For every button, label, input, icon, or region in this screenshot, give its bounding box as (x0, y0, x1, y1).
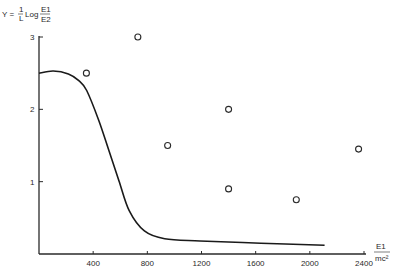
x-tick-label: 1200 (193, 259, 211, 268)
x-tick-label: 400 (86, 259, 100, 268)
chart-plot: Y = 1 L Log E1 E2 123 400800120016002000… (0, 0, 400, 273)
y-axis-label: Y = 1 L Log E1 E2 (2, 5, 51, 24)
y-tick-label: 3 (30, 33, 35, 42)
data-point (135, 34, 141, 40)
y-tick-label: 1 (30, 178, 35, 187)
data-point (356, 146, 362, 152)
y-label-prefix: Y = (2, 10, 14, 19)
x-tick-label: 800 (141, 259, 155, 268)
x-tick-label: 2000 (301, 259, 319, 268)
data-point (226, 106, 232, 112)
data-point (83, 70, 89, 76)
x-label-den: mc² (375, 254, 389, 263)
y-label-frac-den: L (19, 14, 24, 23)
x-tick-label: 2400 (355, 259, 373, 268)
y-label-ratio-den: E2 (41, 15, 51, 24)
axes (39, 36, 366, 254)
x-label-num: E1 (376, 242, 386, 251)
theoretical-curve (39, 71, 325, 245)
y-ticks: 123 (30, 33, 43, 187)
data-point (226, 186, 232, 192)
x-tick-label: 1600 (247, 259, 265, 268)
y-label-ratio-num: E1 (41, 5, 51, 14)
y-label-log: Log (25, 10, 38, 19)
data-point (293, 197, 299, 203)
experimental-points (83, 34, 361, 203)
data-point (165, 143, 171, 149)
y-label-frac-num: 1 (19, 5, 24, 14)
x-axis-label: E1 mc² (374, 242, 390, 263)
y-tick-label: 2 (30, 105, 35, 114)
